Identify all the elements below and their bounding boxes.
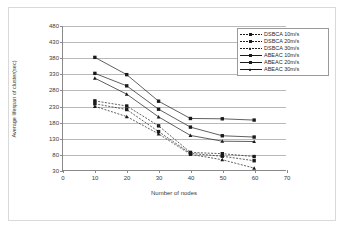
- series-4: [93, 56, 256, 122]
- x-tick-mark: [255, 170, 256, 173]
- data-point: [93, 76, 97, 79]
- x-tick-mark: [63, 170, 64, 173]
- legend-label: DSBCA 30m/s: [262, 45, 299, 52]
- data-point: [125, 73, 128, 76]
- data-point: [221, 117, 224, 120]
- x-tick-mark: [191, 170, 192, 173]
- legend-swatch-icon: [240, 31, 262, 38]
- chart-canvas: Average lifespan of cluster(sec) 3080130…: [9, 8, 335, 220]
- data-point: [252, 159, 255, 162]
- y-tick-label: 230: [49, 104, 59, 110]
- data-point: [93, 72, 96, 75]
- data-point: [252, 166, 256, 169]
- data-point: [220, 158, 224, 161]
- series-line: [95, 104, 254, 161]
- x-tick-label: 0: [61, 175, 64, 181]
- data-point: [252, 155, 255, 158]
- data-point: [157, 100, 160, 103]
- legend-item-5[interactable]: ABEAC 20m/s: [240, 59, 326, 66]
- y-tick-label: 180: [49, 120, 59, 126]
- legend-swatch-icon: [240, 45, 262, 52]
- x-tick-label: 20: [124, 175, 131, 181]
- y-tick-label: 380: [49, 55, 59, 61]
- legend-item-4[interactable]: ABEAC 10m/s: [240, 52, 326, 59]
- x-tick-label: 60: [252, 175, 259, 181]
- data-point: [189, 117, 192, 120]
- y-tick-label: 130: [49, 136, 59, 142]
- chart-figure: Average lifespan of cluster(sec) 3080130…: [8, 7, 336, 221]
- legend-item-1[interactable]: DSBCA 10m/s: [240, 31, 326, 38]
- x-tick-mark: [287, 170, 288, 173]
- series-line: [95, 106, 254, 168]
- data-point: [125, 84, 128, 87]
- y-tick-label: 280: [49, 87, 59, 93]
- x-tick-mark: [95, 170, 96, 173]
- series-1: [93, 99, 256, 158]
- y-tick-label: 30: [52, 168, 59, 174]
- legend-label: DSBCA 10m/s: [262, 31, 299, 38]
- x-tick-label: 40: [188, 175, 195, 181]
- y-tick-label: 480: [49, 23, 59, 29]
- series-line: [95, 101, 254, 157]
- legend-item-6[interactable]: ABEAC 30m/s: [240, 66, 326, 73]
- x-tick-label: 30: [156, 175, 163, 181]
- data-point: [221, 155, 224, 158]
- x-tick-mark: [223, 170, 224, 173]
- data-point: [252, 135, 255, 138]
- x-tick-label: 70: [284, 175, 291, 181]
- legend-label: ABEAC 10m/s: [262, 52, 299, 59]
- data-point: [125, 92, 129, 95]
- data-point: [157, 124, 160, 127]
- data-point: [221, 134, 224, 137]
- legend-swatch-icon: [240, 66, 262, 73]
- legend-label: ABEAC 30m/s: [262, 66, 299, 73]
- legend-swatch-icon: [240, 52, 262, 59]
- series-2: [93, 102, 256, 162]
- y-tick-label: 330: [49, 71, 59, 77]
- y-tick-label: 430: [49, 39, 59, 45]
- data-point: [189, 134, 193, 137]
- data-point: [157, 108, 160, 111]
- series-line: [95, 73, 254, 137]
- data-point: [93, 56, 96, 59]
- legend-swatch-icon: [240, 59, 262, 66]
- chart-legend: DSBCA 10m/sDSBCA 20m/sDSBCA 30m/sABEAC 1…: [237, 28, 329, 76]
- x-tick-mark: [159, 170, 160, 173]
- series-3: [93, 104, 256, 169]
- y-axis-title: Average lifespan of cluster(sec): [9, 26, 19, 171]
- y-tick-label: 80: [52, 152, 59, 158]
- legend-swatch-icon: [240, 38, 262, 45]
- x-tick-mark: [127, 170, 128, 173]
- data-point: [125, 108, 128, 111]
- data-point: [93, 99, 96, 102]
- legend-item-3[interactable]: DSBCA 30m/s: [240, 45, 326, 52]
- x-tick-label: 10: [92, 175, 99, 181]
- series-line: [95, 57, 254, 120]
- series-5: [93, 72, 256, 139]
- x-tick-label: 50: [220, 175, 227, 181]
- data-point: [252, 118, 255, 121]
- legend-item-2[interactable]: DSBCA 20m/s: [240, 38, 326, 45]
- legend-label: DSBCA 20m/s: [262, 38, 299, 45]
- legend-label: ABEAC 20m/s: [262, 59, 299, 66]
- data-point: [189, 125, 192, 128]
- x-axis-title: Number of nodes: [62, 190, 286, 196]
- data-point: [125, 104, 128, 107]
